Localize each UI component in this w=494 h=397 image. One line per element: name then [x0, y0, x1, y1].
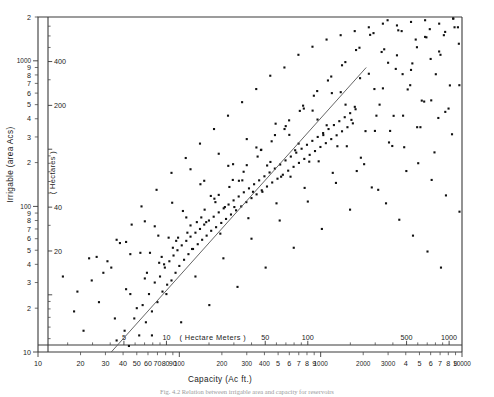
svg-text:10: 10 — [34, 359, 42, 368]
svg-text:20: 20 — [54, 247, 62, 256]
svg-text:40: 40 — [54, 203, 62, 212]
svg-text:10: 10 — [23, 348, 31, 357]
svg-text:( Hectare Meters ): ( Hectare Meters ) — [179, 333, 246, 342]
svg-text:5: 5 — [276, 359, 280, 368]
svg-text:9: 9 — [27, 63, 31, 72]
scatter-plot-figure: 1020304050607080901002003004005678910002… — [0, 0, 494, 397]
svg-text:6: 6 — [27, 89, 31, 98]
svg-text:10000: 10000 — [453, 360, 471, 367]
svg-text:7: 7 — [27, 79, 31, 88]
svg-text:200: 200 — [54, 101, 66, 110]
plot-canvas: 1020304050607080901002003004005678910002… — [0, 0, 494, 397]
x-axis-inner-ticks: 510501005001000 — [38, 333, 462, 346]
svg-text:1000: 1000 — [314, 360, 329, 367]
svg-text:4: 4 — [27, 114, 31, 123]
svg-text:9: 9 — [27, 209, 31, 218]
svg-text:5: 5 — [417, 359, 421, 368]
svg-text:8: 8 — [305, 359, 309, 368]
svg-text:6: 6 — [27, 234, 31, 243]
svg-text:70: 70 — [153, 359, 161, 368]
svg-text:50: 50 — [133, 359, 141, 368]
svg-text:400: 400 — [54, 57, 66, 66]
svg-text:5: 5 — [27, 246, 31, 255]
svg-text:3: 3 — [27, 133, 31, 142]
svg-text:20: 20 — [77, 359, 85, 368]
svg-text:7: 7 — [27, 225, 31, 234]
figure-caption: Fig. 4.2 Relation between irrigable area… — [0, 388, 494, 397]
svg-text:1000: 1000 — [441, 333, 457, 342]
svg-text:6: 6 — [429, 359, 433, 368]
svg-text:2: 2 — [27, 13, 31, 22]
svg-text:4: 4 — [404, 359, 408, 368]
svg-text:3: 3 — [27, 278, 31, 287]
svg-text:100: 100 — [174, 360, 185, 367]
svg-text:400: 400 — [259, 360, 270, 367]
svg-text:500: 500 — [401, 333, 413, 342]
svg-text:2000: 2000 — [356, 360, 371, 367]
trend-line — [111, 67, 366, 352]
svg-text:100: 100 — [20, 203, 31, 210]
y-axis-outer-ticks: 10234567891002345678910002 — [17, 13, 38, 357]
plot-frame — [38, 17, 462, 352]
svg-text:Irrigable (area Acs): Irrigable (area Acs) — [6, 126, 15, 202]
svg-text:100: 100 — [302, 333, 314, 342]
svg-text:40: 40 — [119, 359, 127, 368]
svg-text:200: 200 — [217, 360, 228, 367]
svg-text:4: 4 — [27, 260, 31, 269]
svg-text:Capacity (Ac ft.): Capacity (Ac ft.) — [188, 375, 252, 384]
svg-text:30: 30 — [101, 359, 109, 368]
svg-text:10: 10 — [162, 333, 170, 342]
svg-text:8: 8 — [446, 359, 450, 368]
x-axis-outer-ticks: 1020304050607080901002003004005678910002… — [34, 352, 471, 368]
svg-text:7: 7 — [297, 359, 301, 368]
svg-text:6: 6 — [287, 359, 291, 368]
svg-text:7: 7 — [438, 359, 442, 368]
svg-text:50: 50 — [261, 333, 269, 342]
svg-text:2: 2 — [27, 158, 31, 167]
svg-text:5: 5 — [27, 100, 31, 109]
svg-text:( Hectares ): ( Hectares ) — [48, 151, 57, 194]
svg-text:60: 60 — [144, 359, 152, 368]
data-points — [62, 17, 461, 347]
svg-text:3000: 3000 — [381, 360, 396, 367]
svg-text:2: 2 — [27, 304, 31, 313]
svg-text:1000: 1000 — [17, 57, 32, 64]
svg-text:300: 300 — [241, 360, 252, 367]
